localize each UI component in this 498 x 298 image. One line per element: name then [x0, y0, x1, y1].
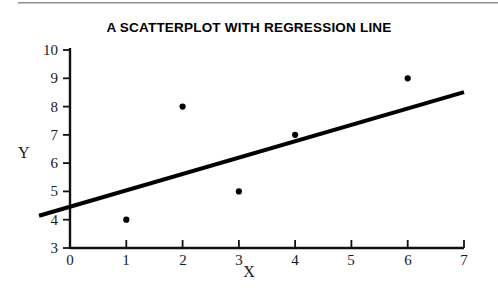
data-point: [179, 103, 185, 109]
y-tick-label-8: 8: [26, 99, 58, 116]
data-point: [405, 75, 411, 81]
data-point: [123, 217, 129, 223]
y-tick-label-10: 10: [26, 42, 58, 59]
plot-canvas: [0, 0, 498, 298]
y-axis-title: Y: [18, 144, 30, 162]
y-tick-label-6: 6: [26, 155, 58, 172]
y-tick-label-3: 3: [26, 240, 58, 257]
data-point: [236, 188, 242, 194]
y-tick-label-5: 5: [26, 183, 58, 200]
y-tick-label-9: 9: [26, 70, 58, 87]
data-point: [292, 132, 298, 138]
regression-line: [39, 92, 464, 216]
y-tick-label-7: 7: [26, 127, 58, 144]
scatterplot-figure: A SCATTERPLOT WITH REGRESSION LINE: [0, 0, 498, 298]
x-axis-title: X: [0, 263, 498, 281]
y-tick-label-4: 4: [26, 212, 58, 229]
